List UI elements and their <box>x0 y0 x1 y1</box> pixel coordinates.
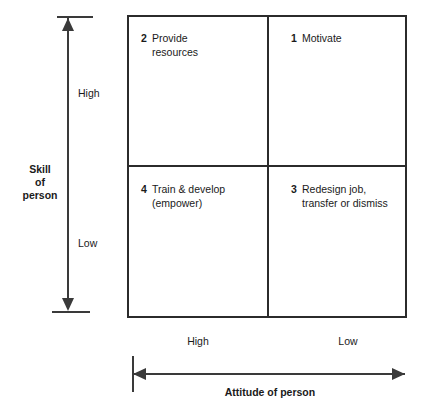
quadrant-top-right: 1Motivate <box>291 32 342 46</box>
y-axis-title-line1: Skill <box>29 163 51 175</box>
x-axis-title: Attitude of person <box>190 386 350 398</box>
quadrant-number-2: 2 <box>141 32 152 46</box>
quadrant-label-1: Motivate <box>302 32 342 46</box>
quadrant-label-2: Provideresources <box>152 32 198 59</box>
y-axis-down-arrowhead-icon <box>62 298 74 311</box>
x-axis-right-arrowhead-icon <box>392 368 405 380</box>
y-axis-title: Skill of person <box>8 163 72 202</box>
y-axis-up-arrowhead-icon <box>62 18 74 31</box>
y-axis-low-label: Low <box>78 237 97 249</box>
x-axis-low-label: Low <box>328 335 368 347</box>
x-axis-left-arrowhead-icon <box>133 368 146 380</box>
quadrant-label-2-line2: resources <box>152 46 198 58</box>
matrix-horizontal-divider <box>127 165 407 167</box>
quadrant-label-4-line1: Train & develop <box>152 183 225 195</box>
y-axis-high-label: High <box>78 87 100 99</box>
quadrant-label-3-line1: Redesign job, <box>302 183 366 195</box>
quadrant-label-3-line2: transfer or dismiss <box>302 197 388 209</box>
quadrant-bottom-left: 4Train & develop(empower) <box>141 183 225 210</box>
y-axis-title-line2: of <box>35 176 45 188</box>
quadrant-bottom-right: 3Redesign job,transfer or dismiss <box>291 183 388 210</box>
quadrant-number-4: 4 <box>141 183 152 197</box>
quadrant-number-1: 1 <box>291 32 302 46</box>
y-axis-bottom-cap <box>52 311 90 313</box>
quadrant-label-2-line1: Provide <box>152 32 188 44</box>
quadrant-label-3: Redesign job,transfer or dismiss <box>302 183 388 210</box>
quadrant-label-1-line1: Motivate <box>302 32 342 44</box>
quadrant-label-4: Train & develop(empower) <box>152 183 225 210</box>
x-axis-high-label: High <box>178 335 218 347</box>
quadrant-label-4-line2: (empower) <box>152 197 202 209</box>
quadrant-number-3: 3 <box>291 183 302 197</box>
y-axis-title-line3: person <box>22 189 57 201</box>
quadrant-top-left: 2Provideresources <box>141 32 198 59</box>
x-axis-line <box>133 373 405 375</box>
skill-attitude-matrix-diagram: 2Provideresources 1Motivate 4Train & dev… <box>0 0 445 411</box>
